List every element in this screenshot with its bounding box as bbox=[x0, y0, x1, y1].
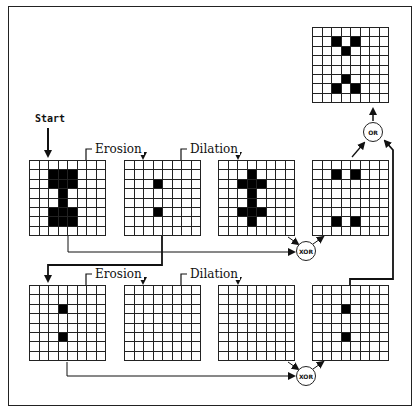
grid-cell bbox=[219, 189, 229, 198]
grid-cell bbox=[351, 66, 361, 75]
grid-cell bbox=[173, 161, 183, 170]
grid-cell bbox=[229, 286, 239, 295]
grid-cell bbox=[125, 324, 135, 333]
grid-cell bbox=[342, 75, 352, 84]
grid-cell bbox=[40, 333, 50, 342]
grid-cell bbox=[219, 286, 229, 295]
grid-cell bbox=[40, 161, 50, 170]
grid-cell bbox=[154, 208, 164, 217]
grid-cell bbox=[97, 227, 107, 236]
grid-cell bbox=[135, 324, 145, 333]
grid-cell bbox=[276, 305, 286, 314]
grid-cell bbox=[68, 333, 78, 342]
grid-cell bbox=[154, 314, 164, 323]
grid-cell bbox=[286, 324, 296, 333]
grid-cell bbox=[370, 56, 380, 65]
grid-cell bbox=[257, 342, 267, 351]
xor-operator-bottom: XOR bbox=[296, 366, 316, 386]
grid-cell bbox=[370, 161, 380, 170]
grid-cell bbox=[97, 352, 107, 361]
grid-cell bbox=[163, 286, 173, 295]
grid-cell bbox=[361, 342, 371, 351]
grid-cell bbox=[87, 227, 97, 236]
grid-cell bbox=[135, 314, 145, 323]
grid-cell bbox=[342, 189, 352, 198]
grid-cell bbox=[238, 342, 248, 351]
grid-cell bbox=[238, 170, 248, 179]
grid-cell bbox=[257, 352, 267, 361]
grid-cell bbox=[78, 342, 88, 351]
grid-cell bbox=[248, 333, 258, 342]
grid-cell bbox=[125, 333, 135, 342]
grid-cell bbox=[370, 324, 380, 333]
grid-cell bbox=[229, 314, 239, 323]
grid-cell bbox=[87, 342, 97, 351]
grid-cell bbox=[323, 47, 333, 56]
grid-cell bbox=[97, 305, 107, 314]
grid-cell bbox=[313, 295, 323, 304]
grid-cell bbox=[267, 180, 277, 189]
grid-cell bbox=[238, 208, 248, 217]
grid-cell bbox=[144, 217, 154, 226]
grid-cell bbox=[276, 189, 286, 198]
grid-cell bbox=[276, 199, 286, 208]
grid-cell bbox=[342, 352, 352, 361]
grid-cell bbox=[68, 199, 78, 208]
grid-cell bbox=[332, 342, 342, 351]
grid-cell bbox=[323, 180, 333, 189]
grid-cell bbox=[30, 342, 40, 351]
grid-cell bbox=[30, 199, 40, 208]
grid-cell bbox=[380, 286, 390, 295]
grid-cell bbox=[125, 305, 135, 314]
grid-cell bbox=[30, 295, 40, 304]
grid-cell bbox=[144, 180, 154, 189]
grid-cell bbox=[192, 227, 202, 236]
grid-cell bbox=[332, 189, 342, 198]
grid-cell bbox=[163, 208, 173, 217]
grid-cell bbox=[30, 305, 40, 314]
grid-cell bbox=[68, 161, 78, 170]
grid-cell bbox=[154, 170, 164, 179]
grid-cell bbox=[192, 217, 202, 226]
grid-cell bbox=[173, 199, 183, 208]
grid-cell bbox=[219, 324, 229, 333]
grid-cell bbox=[125, 217, 135, 226]
grid-cell bbox=[323, 37, 333, 46]
grid-cell bbox=[257, 295, 267, 304]
grid-cell bbox=[286, 199, 296, 208]
grid-cell bbox=[125, 352, 135, 361]
grid-cell bbox=[173, 305, 183, 314]
grid-cell bbox=[370, 333, 380, 342]
grid-cell bbox=[361, 324, 371, 333]
grid-cell bbox=[219, 170, 229, 179]
grid-cell bbox=[351, 305, 361, 314]
grid-cell bbox=[68, 314, 78, 323]
grid-cell bbox=[219, 217, 229, 226]
grid-cell bbox=[361, 199, 371, 208]
grid-cell bbox=[248, 314, 258, 323]
grid-cell bbox=[361, 28, 371, 37]
grid-cell bbox=[342, 208, 352, 217]
grid-cell bbox=[192, 189, 202, 198]
grid-cell bbox=[361, 208, 371, 217]
grid-cell bbox=[135, 217, 145, 226]
grid-cell bbox=[182, 199, 192, 208]
grid-cell bbox=[173, 286, 183, 295]
grid-cell bbox=[370, 208, 380, 217]
grid-cell bbox=[332, 352, 342, 361]
grid-cell bbox=[313, 305, 323, 314]
grid-cell bbox=[332, 227, 342, 236]
grid-cell bbox=[59, 227, 69, 236]
grid-cell bbox=[267, 333, 277, 342]
grid-cell bbox=[370, 199, 380, 208]
or-operator: OR bbox=[363, 122, 383, 142]
grid-cell bbox=[342, 94, 352, 103]
grid-cell bbox=[351, 56, 361, 65]
grid-cell bbox=[323, 286, 333, 295]
grid-cell bbox=[313, 333, 323, 342]
grid-cell bbox=[323, 170, 333, 179]
grid-cell bbox=[87, 324, 97, 333]
grid-cell bbox=[286, 314, 296, 323]
grid-cell bbox=[173, 342, 183, 351]
grid-cell bbox=[78, 295, 88, 304]
